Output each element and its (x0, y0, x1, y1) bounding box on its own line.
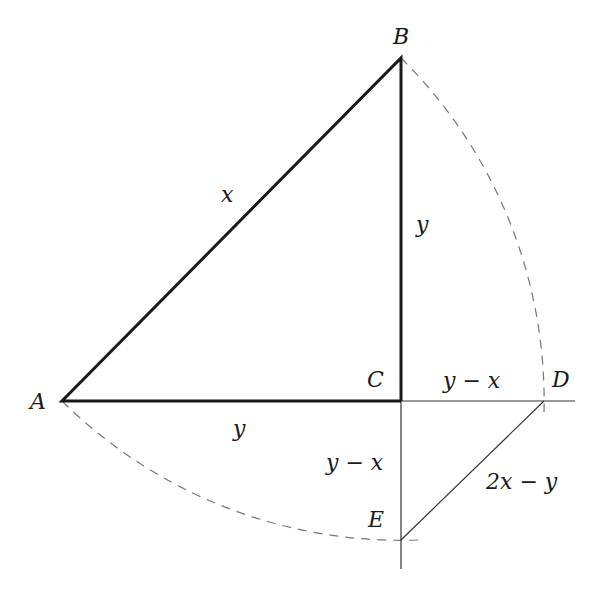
segment-label-AC: y (232, 416, 246, 441)
point-label-A: A (28, 389, 46, 414)
segment-label-CD: y − x (442, 368, 501, 393)
segment-label-AB: x (221, 182, 234, 207)
segment-label-CE: y − x (325, 450, 384, 475)
point-label-C: C (367, 367, 384, 392)
segment-label-DE: 2x − y (485, 469, 558, 494)
point-label-B: B (392, 24, 409, 49)
segment-label-BC: y (415, 212, 429, 237)
triangle-ABC (62, 58, 401, 401)
geometry-diagram: A B C D E x y y y − x y − x 2x − y (0, 0, 599, 592)
point-label-E: E (367, 507, 384, 532)
point-label-D: D (551, 367, 570, 392)
